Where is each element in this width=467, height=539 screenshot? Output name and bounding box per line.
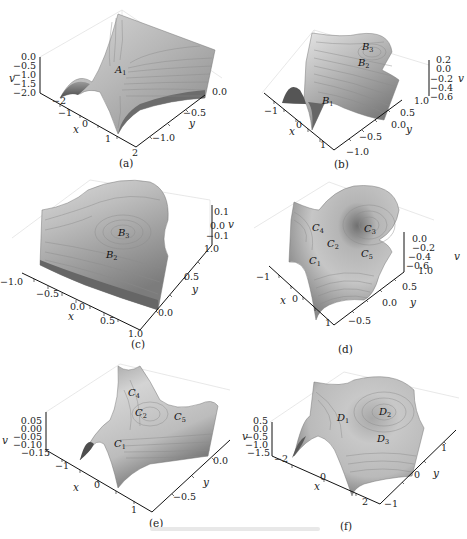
v-axis-label: v bbox=[242, 430, 248, 442]
panel-e: 0.05 0.00 −0.05 −0.10 −0.15 v −1 0 1 x 0… bbox=[0, 360, 233, 538]
x-tick: −2 bbox=[274, 453, 288, 464]
y-tick: 0.5 bbox=[400, 107, 415, 118]
y-tick: −0.5 bbox=[348, 315, 371, 326]
panel-label-a: (a) bbox=[119, 157, 133, 169]
panel-c: 0.1 0.0 −0.1 v −1.0 −0.5 0.0 0.5 1.0 x 1… bbox=[0, 180, 233, 358]
surface-fold bbox=[282, 87, 306, 104]
y-axis-label: y bbox=[409, 296, 417, 308]
surface-plot-b: 0.2 0.0 −0.2 −0.4 −0.6 v −1 0 1 x 1.0 0.… bbox=[234, 0, 467, 178]
x-tick: −2 bbox=[52, 95, 66, 106]
panel-label-b: (b) bbox=[334, 158, 349, 170]
panel-d: 0.0 −0.2 −0.4 −0.6 v −1 0 1 x 1.0 0.5 0.… bbox=[234, 180, 467, 358]
panel-b: 0.2 0.0 −0.2 −0.4 −0.6 v −1 0 1 x 1.0 0.… bbox=[234, 0, 467, 178]
x-tick: 0 bbox=[320, 471, 326, 482]
v-tick: 0.1 bbox=[214, 206, 229, 217]
x-tick: 0 bbox=[82, 118, 88, 129]
x-tick: 1 bbox=[105, 133, 111, 144]
x-tick: −1 bbox=[58, 107, 72, 118]
y-tick: −1.0 bbox=[152, 132, 175, 143]
x-tick: 0 bbox=[296, 119, 302, 130]
y-tick: 0 bbox=[414, 469, 420, 480]
v-axis-label: v bbox=[458, 72, 464, 84]
y-tick: −1 bbox=[384, 498, 398, 509]
v-axis-label: v bbox=[454, 250, 460, 262]
x-tick: 0 bbox=[94, 479, 100, 490]
x-tick: 2 bbox=[362, 496, 368, 507]
y-axis-label: y bbox=[191, 283, 199, 295]
v-tick: −1.5 bbox=[247, 447, 270, 458]
x-tick: −1 bbox=[264, 105, 278, 116]
panel-f: 0.5 0.0 −0.5 −1.0 −1.5 v −2 0 2 x 1 0 −1… bbox=[234, 360, 467, 538]
v-tick: −0.6 bbox=[430, 91, 453, 102]
v-tick: −0.15 bbox=[21, 447, 50, 458]
y-axis-label: y bbox=[432, 467, 440, 479]
surface-fold bbox=[80, 442, 94, 460]
y-tick: −0.5 bbox=[173, 491, 196, 502]
y-tick: 1.0 bbox=[418, 265, 433, 276]
v-axis-label: v bbox=[9, 72, 15, 84]
y-tick: −0.5 bbox=[359, 131, 382, 142]
panel-label-d: (d) bbox=[338, 343, 353, 355]
v-tick: −0.1 bbox=[206, 230, 229, 241]
x-tick: 1 bbox=[325, 317, 331, 328]
v-axis-label: v bbox=[2, 434, 8, 446]
y-axis-label: y bbox=[188, 117, 196, 129]
y-tick: 0.0 bbox=[212, 86, 227, 97]
y-tick: 0.0 bbox=[382, 297, 397, 308]
x-axis-label: x bbox=[289, 125, 295, 137]
x-axis-label: x bbox=[314, 480, 320, 492]
y-tick: 0.0 bbox=[391, 119, 406, 130]
x-tick: −1 bbox=[55, 460, 69, 471]
y-axis-label: y bbox=[405, 123, 413, 135]
panel-label-f: (f) bbox=[340, 520, 352, 532]
surface-plot-e: 0.05 0.00 −0.05 −0.10 −0.15 v −1 0 1 x 0… bbox=[0, 360, 233, 538]
surface-plot-f: 0.5 0.0 −0.5 −1.0 −1.5 v −2 0 2 x 1 0 −1… bbox=[234, 360, 467, 538]
x-tick: 1 bbox=[131, 504, 137, 515]
x-axis-label: x bbox=[280, 294, 286, 306]
y-tick: 1.0 bbox=[204, 243, 219, 254]
x-tick: 0.5 bbox=[100, 315, 115, 326]
panel-a: 0.0 −0.5 −1.0 −1.5 −2.0 v −2 −1 0 1 2 x … bbox=[0, 0, 233, 178]
y-tick: 0.0 bbox=[158, 307, 173, 318]
surface-plot-d: 0.0 −0.2 −0.4 −0.6 v −1 0 1 x 1.0 0.5 0.… bbox=[234, 180, 467, 358]
y-tick: 0.5 bbox=[402, 281, 417, 292]
x-axis-label: x bbox=[73, 123, 79, 135]
panel-label-c: (c) bbox=[131, 338, 145, 350]
x-tick: 0 bbox=[292, 293, 298, 304]
figure-caption-faded bbox=[150, 527, 320, 532]
x-axis-label: x bbox=[68, 310, 74, 322]
surface-plot-a: 0.0 −0.5 −1.0 −1.5 −2.0 v −2 −1 0 1 2 x … bbox=[0, 0, 233, 178]
x-axis-label: x bbox=[73, 481, 79, 493]
y-tick: 0.0 bbox=[213, 455, 228, 466]
y-tick: −1.0 bbox=[346, 146, 369, 157]
y-tick: 1 bbox=[441, 442, 447, 453]
surface-plot-c: 0.1 0.0 −0.1 v −1.0 −0.5 0.0 0.5 1.0 x 1… bbox=[0, 180, 233, 358]
y-tick: 1.0 bbox=[414, 95, 429, 106]
y-axis-label: y bbox=[202, 476, 210, 488]
x-tick: −1.0 bbox=[0, 276, 23, 287]
v-tick: −2.0 bbox=[13, 87, 36, 98]
x-tick: 1 bbox=[320, 139, 326, 150]
x-tick: −0.5 bbox=[36, 288, 59, 299]
y-tick: 0.5 bbox=[184, 271, 199, 282]
x-tick: −1 bbox=[256, 271, 270, 282]
surface bbox=[294, 377, 424, 496]
